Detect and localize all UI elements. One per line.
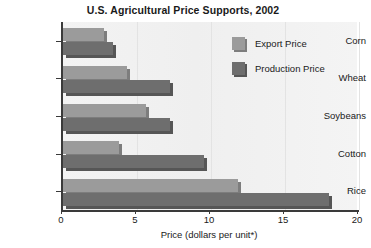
y-axis-tick-wheat (56, 78, 61, 79)
y-axis-label-cotton: Cotton (310, 148, 366, 159)
bar-rice-production-price (63, 193, 329, 206)
x-axis-ticklabel-20: 20 (342, 214, 371, 225)
bar-soybeans-production-price (63, 118, 170, 131)
bar-wheat-export-price (63, 66, 127, 79)
legend-label-export-price: Export Price (255, 38, 307, 49)
x-axis-ticklabel-0: 0 (46, 214, 76, 225)
y-axis-tick-rice (56, 191, 61, 192)
y-axis-tick-soybeans (56, 116, 61, 117)
x-axis-title: Price (dollars per unit*) (61, 229, 357, 240)
bar-corn-production-price (63, 42, 113, 55)
y-axis-tick-corn (56, 41, 61, 42)
y-axis-label-corn: Corn (310, 35, 366, 46)
gridline-15 (285, 22, 286, 210)
legend-swatch-export-price (232, 37, 245, 50)
bar-rice-export-price (63, 179, 238, 192)
x-axis-ticklabel-5: 5 (120, 214, 150, 225)
y-axis-label-soybeans: Soybeans (310, 110, 366, 121)
chart-title: U.S. Agricultural Price Supports, 2002 (0, 4, 366, 16)
bar-wheat-production-price (63, 80, 170, 93)
legend-swatch-production-price (232, 62, 245, 75)
bar-corn-export-price (63, 28, 104, 41)
y-axis-label-rice: Rice (310, 185, 366, 196)
legend-label-production-price: Production Price (255, 63, 325, 74)
bar-soybeans-export-price (63, 104, 146, 117)
bar-cotton-export-price (63, 141, 119, 154)
y-axis-tick-cotton (56, 154, 61, 155)
y-axis-label-wheat: Wheat (310, 72, 366, 83)
bar-cotton-production-price (63, 155, 204, 168)
x-axis-ticklabel-10: 10 (194, 214, 224, 225)
x-axis-line (61, 210, 359, 212)
y-axis-line (61, 22, 63, 212)
x-axis-ticklabel-15: 15 (268, 214, 298, 225)
